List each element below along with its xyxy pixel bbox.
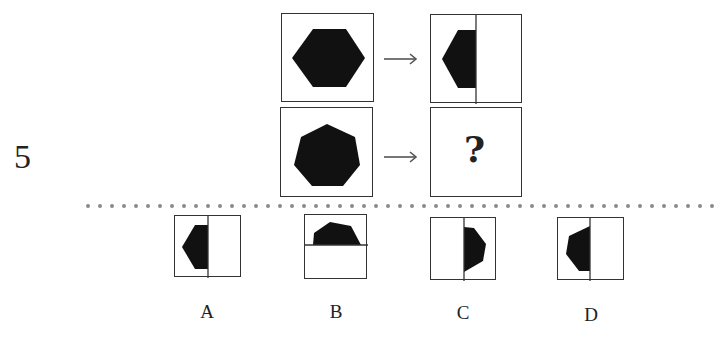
arrow-right-icon	[384, 151, 418, 163]
option-a-label[interactable]: A	[192, 301, 222, 323]
source-box-heptagon	[280, 107, 373, 197]
option-d-half-heptagon-icon	[558, 218, 625, 281]
answer-box-unknown: ?	[430, 107, 522, 197]
dotted-separator	[86, 202, 726, 210]
question-mark: ?	[464, 128, 485, 170]
result-box-hexagon	[430, 14, 522, 103]
option-d-label[interactable]: D	[576, 304, 606, 326]
option-a-figure[interactable]	[174, 215, 241, 277]
source-box-hexagon	[281, 13, 374, 102]
option-c-half-heptagon-icon	[431, 218, 497, 281]
half-hexagon-icon	[431, 15, 523, 104]
question-number: 5	[14, 138, 31, 176]
option-b-half-heptagon-icon	[305, 215, 368, 280]
option-c-label[interactable]: C	[448, 302, 478, 324]
arrow-right-icon	[384, 53, 418, 65]
option-b-label[interactable]: B	[321, 301, 351, 323]
option-a-half-hexagon-icon	[175, 216, 242, 278]
hexagon-icon	[282, 14, 375, 103]
option-c-figure[interactable]	[430, 217, 496, 280]
option-b-figure[interactable]	[304, 214, 367, 279]
heptagon-icon	[281, 108, 374, 198]
option-d-figure[interactable]	[557, 217, 624, 280]
